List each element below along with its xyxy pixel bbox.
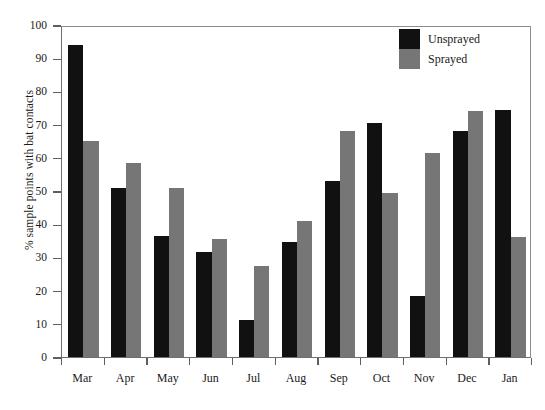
x-axis-tick-label-jan: Jan [480,371,540,385]
y-axis-tick [53,59,61,60]
chart-legend: UnsprayedSprayed [399,29,480,69]
bar-sprayed-jul [254,266,269,357]
y-axis-tick-label: 10 [0,319,47,331]
bar-group-jan [495,27,525,357]
y-axis-tick [53,324,61,325]
x-axis-tick [61,358,62,365]
y-axis-tick-label: 50 [0,186,47,198]
x-axis-tick [189,358,190,365]
y-axis-tick-label: 100 [0,20,47,32]
bar-sprayed-jun [212,239,227,357]
bar-group-may [154,27,184,357]
bar-unsprayed-sep [325,181,340,357]
bars-layer [62,27,530,357]
bar-unsprayed-nov [410,296,425,357]
bar-sprayed-aug [297,221,312,357]
legend-label: Sprayed [428,53,467,65]
bar-unsprayed-dec [453,131,468,357]
y-axis-tick [53,191,61,192]
y-axis-tick-label: 90 [0,53,47,65]
bar-sprayed-nov [425,153,440,357]
y-axis-tick-label: 30 [0,252,47,264]
bar-unsprayed-may [154,236,169,357]
legend-item-unsprayed: Unsprayed [399,29,480,49]
bar-group-sep [325,27,355,357]
y-axis-tick-label: 20 [0,286,47,298]
y-axis-tick [53,291,61,292]
bar-chart: % sample points with bat contacts 100908… [0,0,545,410]
y-axis-tick-label: 0 [0,352,47,364]
gray-swatch [399,49,420,69]
x-axis-tick [275,358,276,365]
y-axis-tick [53,92,61,93]
bar-sprayed-oct [382,193,397,357]
y-axis-tick-label: 70 [0,120,47,132]
bar-group-jun [196,27,226,357]
y-axis-tick-label: 40 [0,219,47,231]
bar-group-mar [68,27,98,357]
bar-sprayed-apr [126,163,141,357]
y-axis-tick [53,258,61,259]
bar-group-apr [111,27,141,357]
bar-group-dec [453,27,483,357]
bar-sprayed-sep [340,131,355,357]
y-axis-tick [53,25,61,26]
plot-area [61,26,531,358]
bar-unsprayed-aug [282,242,297,357]
legend-item-sprayed: Sprayed [399,49,480,69]
x-axis-tick [232,358,233,365]
x-axis-tick [446,358,447,365]
x-axis-tick [531,358,532,365]
x-axis-tick [488,358,489,365]
bar-sprayed-jan [511,237,526,357]
bar-unsprayed-jul [239,320,254,357]
bar-sprayed-mar [83,141,98,357]
bar-unsprayed-jun [196,252,211,357]
bar-group-aug [282,27,312,357]
bar-group-jul [239,27,269,357]
x-axis-tick [146,358,147,365]
bar-sprayed-dec [468,111,483,357]
x-axis-tick [360,358,361,365]
bar-group-oct [367,27,397,357]
x-axis-tick [403,358,404,365]
bar-unsprayed-jan [495,110,510,357]
x-axis-tick [317,358,318,365]
black-swatch [399,29,420,49]
y-axis-tick [53,125,61,126]
bar-group-nov [410,27,440,357]
x-axis-tick [104,358,105,365]
bar-unsprayed-oct [367,123,382,357]
bar-unsprayed-apr [111,188,126,357]
y-axis-tick-label: 60 [0,153,47,165]
y-axis-tick [53,158,61,159]
y-axis-tick [53,357,61,358]
bar-sprayed-may [169,188,184,357]
y-axis-tick-label: 80 [0,86,47,98]
bar-unsprayed-mar [68,45,83,357]
y-axis-tick [53,225,61,226]
legend-label: Unsprayed [428,33,480,45]
